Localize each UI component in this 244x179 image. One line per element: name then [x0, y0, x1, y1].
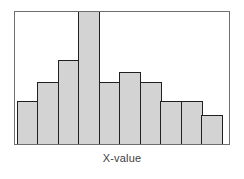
bar-series	[17, 12, 223, 144]
histogram-bar	[181, 101, 203, 144]
plot-frame	[14, 11, 230, 145]
histogram-bar	[78, 12, 100, 144]
histogram-bar	[160, 101, 182, 144]
histogram-bar	[99, 82, 121, 144]
histogram-bar	[17, 101, 39, 144]
histogram-bar	[58, 60, 80, 144]
histogram-bar	[201, 115, 223, 144]
plot-area	[15, 12, 229, 144]
histogram-figure: X-value	[0, 0, 244, 179]
x-axis-label: X-value	[0, 152, 244, 164]
histogram-bar	[119, 72, 141, 144]
histogram-bar	[140, 82, 162, 144]
histogram-bar	[37, 82, 59, 144]
